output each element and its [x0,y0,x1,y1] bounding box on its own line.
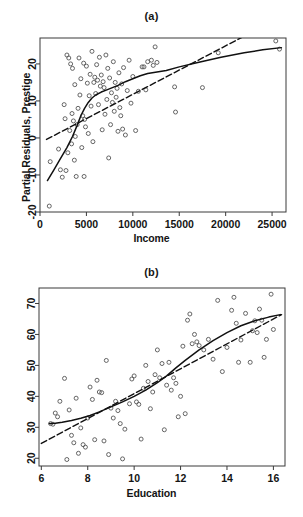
data-point [176,415,180,419]
data-point [234,321,238,325]
data-point [144,363,148,367]
data-point [123,427,127,431]
data-point [71,119,75,123]
y-tick-label: 0 [26,135,38,141]
data-point [114,95,118,99]
data-point [174,110,178,114]
data-point [99,73,103,77]
data-point [162,428,166,432]
data-point [155,60,159,64]
data-point [255,331,259,335]
data-point [271,327,275,331]
linear-fit-line [41,315,281,444]
data-point [151,63,155,67]
data-point [93,438,97,442]
data-point [70,112,74,116]
lowess-smooth-line [47,48,281,181]
data-point [53,411,57,415]
x-tick-label: 10000 [118,218,147,230]
x-tick-label: 10 [128,472,140,484]
data-point [63,117,67,121]
data-point [48,160,52,164]
data-point [97,55,101,59]
data-point [83,125,87,129]
panel-b-plot-area: 6810121416203040506070 [0,260,303,517]
data-point [70,66,74,70]
data-point [160,362,164,366]
data-point [107,156,111,160]
data-point [111,416,115,420]
data-point [139,437,143,441]
data-point [119,114,123,118]
y-tick-label: 50 [25,359,37,371]
data-point [92,80,96,84]
data-point [88,72,92,76]
data-point [121,127,125,131]
data-point [107,453,111,457]
data-point [89,104,93,108]
data-point [85,81,89,85]
data-point [106,66,110,70]
y-tick-label: 40 [25,390,37,402]
data-point [134,400,138,404]
x-tick-label: 5000 [75,218,99,230]
x-tick-label: 12 [175,472,187,484]
data-point [57,147,61,151]
data-point [103,112,107,116]
data-point [129,101,133,105]
data-point [111,60,115,64]
data-point [69,62,73,66]
x-tick-label: 15000 [165,218,194,230]
data-point [108,76,112,80]
data-point [148,407,152,411]
data-point [118,422,122,426]
data-point [76,451,80,455]
lowess-smooth-line [49,315,280,424]
data-point [122,66,126,70]
x-tick-label: 20000 [211,218,240,230]
data-point [78,93,82,97]
y-tick-label: -20 [26,204,38,219]
data-point [79,426,83,430]
data-point [47,204,51,208]
data-point [105,97,109,101]
data-point [86,132,90,136]
data-point [190,342,194,346]
data-point [197,344,201,348]
y-tick-label: 30 [25,421,37,433]
data-point [109,91,113,95]
y-tick-label: -10 [26,167,38,182]
data-point [225,345,229,349]
data-point [153,45,157,49]
y-tick-label: 20 [25,452,37,464]
data-point [116,129,120,133]
data-point [216,51,220,55]
data-point [239,338,243,342]
data-point [121,457,125,461]
data-point [172,376,176,380]
data-point [173,85,177,89]
panel-b: (b) Partial Residuals, Prestige 68101214… [0,260,303,517]
panel-a-plot-area: 0500010000150002000025000-20-1001020 [0,0,303,260]
data-point [211,357,215,361]
data-point [232,295,236,299]
data-point [169,388,173,392]
data-point [186,318,190,322]
data-point [95,63,99,67]
panel-b-x-axis-title: Education [0,487,303,499]
data-point [104,358,108,362]
data-point [220,370,224,374]
data-point [74,174,78,178]
data-point [146,379,150,383]
data-point [96,78,100,82]
data-point [62,103,66,107]
data-point [109,123,113,127]
data-point [68,129,72,133]
data-point [200,86,204,90]
data-point [134,129,138,133]
x-tick-label: 8 [85,472,91,484]
data-point [112,109,116,113]
data-point [165,383,169,387]
data-point [118,106,122,110]
data-point [257,307,261,311]
